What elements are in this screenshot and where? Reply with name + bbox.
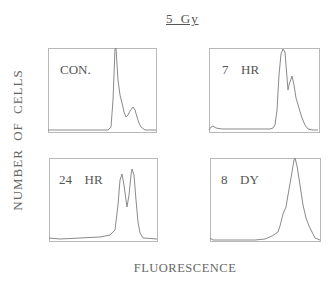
panel-label-7hr: 7 HR — [222, 62, 259, 78]
panel-label-8dy: 8 DY — [221, 172, 259, 188]
histogram-curve-control — [48, 48, 156, 130]
histogram-plots — [0, 0, 335, 282]
histogram-curve-8dy — [210, 158, 320, 240]
panel-frame-8dy — [211, 159, 321, 242]
panel-label-control: CON. — [60, 62, 91, 78]
panel-frame-24hr — [50, 159, 158, 242]
panel-label-24hr: 24 HR — [59, 172, 103, 188]
